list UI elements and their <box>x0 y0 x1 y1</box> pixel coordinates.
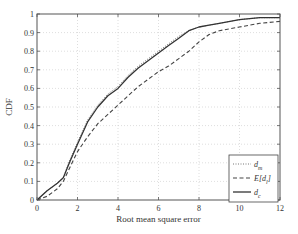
y-tick-label: 1 <box>30 10 34 19</box>
y-tick-label: 0.6 <box>24 84 34 93</box>
y-tick-label: 0.5 <box>24 103 34 112</box>
y-tick-label: 0.4 <box>24 122 34 131</box>
x-tick-label: 6 <box>157 204 161 213</box>
x-tick-label: 10 <box>236 204 244 213</box>
x-axis-label: Root mean square error <box>116 214 201 224</box>
y-tick-label: 0.2 <box>24 159 34 168</box>
x-tick-label: 2 <box>76 204 80 213</box>
x-tick-label: 0 <box>35 204 39 213</box>
x-tick-label: 12 <box>276 204 284 213</box>
y-tick-label: 0.7 <box>24 66 34 75</box>
legend: dmE[dl]dc <box>229 155 278 202</box>
y-tick-label: 0.8 <box>24 47 34 56</box>
y-tick-label: 0.9 <box>24 29 34 38</box>
legend-label: E[dl] <box>253 174 271 185</box>
y-tick-label: 0.1 <box>24 177 34 186</box>
y-tick-label: 0 <box>30 196 34 205</box>
cdf-chart: 02468101200.10.20.30.40.50.60.70.80.91 R… <box>0 0 298 234</box>
chart-canvas: 02468101200.10.20.30.40.50.60.70.80.91 R… <box>0 0 298 234</box>
x-tick-label: 4 <box>116 204 120 213</box>
x-tick-label: 8 <box>197 204 201 213</box>
y-tick-label: 0.3 <box>24 140 34 149</box>
y-axis-label: CDF <box>4 98 14 116</box>
